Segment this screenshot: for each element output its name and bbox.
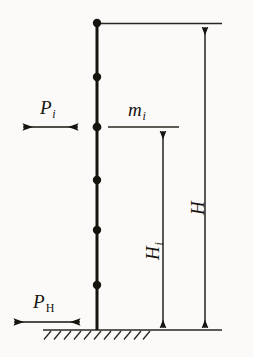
mass-node <box>93 281 101 289</box>
mass-node <box>93 226 101 234</box>
mass-node <box>93 123 102 132</box>
mass-node <box>93 176 101 184</box>
label-p-i-base: P <box>40 97 52 118</box>
mass-node <box>93 19 101 27</box>
label-p-h-base: P <box>33 291 45 312</box>
label-m-i-base: m <box>128 99 142 120</box>
ground-hatching <box>44 331 150 340</box>
label-mass-story: mi <box>128 100 146 122</box>
label-lateral-load-story: Pi <box>40 98 56 120</box>
label-p-i-subscript: i <box>52 107 55 121</box>
label-h-total-base: H <box>187 201 208 215</box>
label-p-h-subscript: H <box>46 301 55 315</box>
label-lateral-load-base: PH <box>33 292 54 314</box>
label-height-total: H <box>188 201 210 215</box>
label-m-i-subscript: i <box>142 109 145 123</box>
figure-canvas: Pi PH mi Hi H <box>0 0 253 357</box>
label-height-story: Hi <box>143 242 165 260</box>
mass-node <box>93 73 101 81</box>
label-h-i-subscript: i <box>152 242 166 245</box>
label-h-i-base: H <box>142 246 163 260</box>
